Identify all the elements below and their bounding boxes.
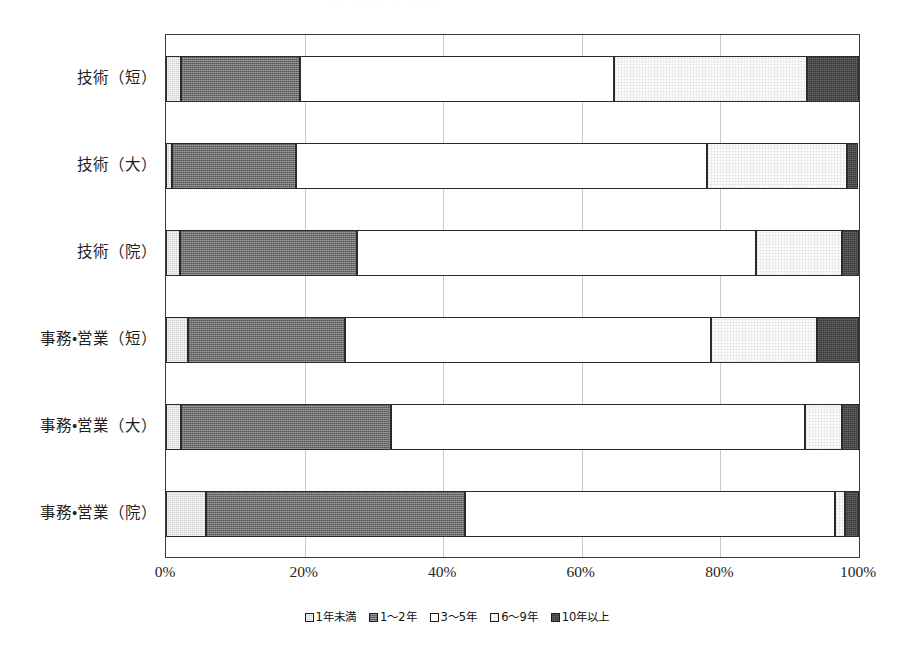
bar-segment xyxy=(166,230,180,276)
bar-segment xyxy=(181,56,300,102)
category-label-5: 事務・営業（大） xyxy=(7,417,157,435)
stacked-bar-chart: · · · ·· · ·· · ·· · 技術（短）技術（大）技術（院）事務・営… xyxy=(0,0,914,646)
bar-segment xyxy=(707,143,846,189)
bar-segment xyxy=(842,404,859,450)
category-label-6: 事務・営業（院） xyxy=(7,504,157,522)
bar-segment xyxy=(166,404,181,450)
bar-segment xyxy=(180,230,357,276)
bar-row xyxy=(166,317,859,363)
plot-area xyxy=(165,34,860,558)
bar-segment xyxy=(166,491,206,537)
bar-segment xyxy=(296,143,708,189)
category-axis-labels: 技術（短）技術（大）技術（院）事務・営業（短）事務・営業（大）事務・営業（院） xyxy=(0,34,157,558)
bar-segment xyxy=(345,317,712,363)
x-tick-label-0: 0% xyxy=(155,562,176,582)
x-tick-label-60: 60% xyxy=(567,562,595,582)
value-axis: 0%20%40%60%80%100% xyxy=(165,562,860,586)
legend-label: 1〜2年 xyxy=(380,610,417,624)
legend-swatch-icon xyxy=(305,613,314,622)
scan-artifact-text: · · · ·· · ·· · ·· · xyxy=(330,0,890,9)
legend-swatch-icon xyxy=(369,613,378,622)
x-tick-label-80: 80% xyxy=(705,562,733,582)
gridline-40 xyxy=(443,35,444,557)
legend-label: 10年以上 xyxy=(562,610,610,624)
legend-swatch-icon xyxy=(430,613,439,622)
bar-segment xyxy=(300,56,614,102)
legend-item-4[interactable]: 6〜9年 xyxy=(490,610,538,624)
chart-legend: 1年未満1〜2年3〜5年6〜9年10年以上 xyxy=(0,606,914,628)
legend-label: 1年未満 xyxy=(316,610,356,624)
bar-segment xyxy=(817,317,859,363)
legend-item-3[interactable]: 3〜5年 xyxy=(430,610,478,624)
bar-segment xyxy=(807,56,859,102)
bar-segment xyxy=(845,491,859,537)
x-tick-label-40: 40% xyxy=(428,562,456,582)
bar-segment xyxy=(465,491,835,537)
category-label-4: 事務・営業（短） xyxy=(7,330,157,348)
bar-segment xyxy=(181,404,391,450)
gridline-80 xyxy=(720,35,721,557)
bar-segment xyxy=(805,404,842,450)
bar-row xyxy=(166,230,859,276)
legend-swatch-icon xyxy=(551,613,560,622)
bar-row xyxy=(166,143,859,189)
bar-segment xyxy=(166,56,181,102)
gridline-60 xyxy=(582,35,583,557)
bar-row xyxy=(166,491,859,537)
legend-swatch-icon xyxy=(490,613,499,622)
gridline-20 xyxy=(305,35,306,557)
bar-segment xyxy=(188,317,345,363)
bar-segment xyxy=(842,230,859,276)
x-tick-label-20: 20% xyxy=(289,562,317,582)
bar-segment xyxy=(711,317,817,363)
category-label-3: 技術（院） xyxy=(7,243,157,261)
category-label-1: 技術（短） xyxy=(7,69,157,87)
bar-segment xyxy=(206,491,465,537)
bar-segment xyxy=(391,404,805,450)
legend-item-5[interactable]: 10年以上 xyxy=(551,610,610,624)
legend-item-2[interactable]: 1〜2年 xyxy=(369,610,417,624)
legend-item-1[interactable]: 1年未満 xyxy=(305,610,356,624)
bar-segment xyxy=(847,143,859,189)
bar-segment xyxy=(614,56,807,102)
bar-segment xyxy=(756,230,842,276)
bar-segment xyxy=(835,491,845,537)
bar-row xyxy=(166,56,859,102)
legend-label: 3〜5年 xyxy=(441,610,478,624)
bar-row xyxy=(166,404,859,450)
legend-label: 6〜9年 xyxy=(501,610,538,624)
bar-segment xyxy=(172,143,296,189)
bar-segment xyxy=(166,317,188,363)
category-label-2: 技術（大） xyxy=(7,156,157,174)
x-tick-label-100: 100% xyxy=(840,562,876,582)
bar-segment xyxy=(357,230,756,276)
